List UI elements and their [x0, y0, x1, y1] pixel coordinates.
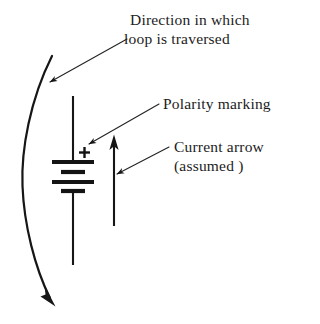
circuit-diagram-svg: Direction in which loop is traversed Pol…: [0, 0, 320, 324]
background: [0, 0, 320, 324]
label-polarity-marking: Polarity marking: [163, 95, 271, 112]
label-current-arrow-line2: (assumed ): [174, 157, 244, 175]
label-current-arrow-line1: Current arrow: [174, 138, 265, 155]
label-loop-direction-line1: Direction in which: [130, 11, 250, 28]
diagram-canvas: Direction in which loop is traversed Pol…: [0, 0, 320, 324]
label-loop-direction-line2: loop is traversed: [124, 30, 230, 47]
